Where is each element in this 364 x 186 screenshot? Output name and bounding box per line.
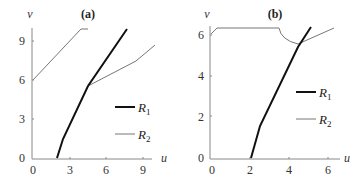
figure: 0 3 6 9 0 3 6 9 v u (a) R1 R2 0 2 4 6 (0, 0, 364, 186)
panel-b-xtick-label: 6 (325, 163, 331, 177)
panel-a-xtick-label: 3 (67, 163, 73, 177)
panel-a-r2-upper-curve (33, 29, 88, 80)
panel-a-y-label: v (27, 7, 33, 21)
panel-a-legend-r1-label: R1 (137, 100, 150, 117)
panel-b-xtick-label: 4 (286, 163, 292, 177)
panel-b-legend-r2-label: R2 (318, 112, 331, 129)
panel-a-r1-curve (57, 29, 127, 158)
panel-a-xtick-label: 0 (30, 163, 36, 177)
panel-a-ytick-label: 6 (19, 73, 25, 87)
panel-b: 0 2 4 6 0 2 4 6 v u (b) R1 R2 (198, 7, 350, 177)
panel-b-ytick-label: 0 (198, 151, 204, 165)
panel-a-x-label: u (161, 151, 167, 165)
panel-b-legend-r1-label: R1 (318, 85, 331, 102)
panel-b-title: (b) (268, 7, 283, 21)
panel-a-title: (a) (81, 7, 95, 21)
panel-a-ytick-label: 3 (19, 112, 25, 126)
panel-a-ytick-label: 9 (19, 34, 25, 48)
panel-b-xtick-label: 2 (247, 163, 253, 177)
panel-b-ytick-label: 6 (198, 28, 204, 42)
panel-a: 0 3 6 9 0 3 6 9 v u (a) R1 R2 (19, 7, 167, 177)
panel-b-xtick-label: 0 (209, 163, 215, 177)
panel-a-r2-lower-curve (88, 45, 155, 86)
panel-b-x-label: u (344, 151, 350, 165)
panel-b-r2-curve (211, 28, 334, 44)
panel-b-y-label: v (204, 7, 210, 21)
panel-a-xtick-label: 9 (140, 163, 146, 177)
panel-b-ytick-label: 4 (198, 69, 204, 83)
panel-a-legend-r2-label: R2 (137, 127, 150, 144)
panel-a-xtick-label: 6 (103, 163, 109, 177)
panel-b-ytick-label: 2 (198, 110, 204, 124)
panel-a-ytick-label: 0 (19, 151, 25, 165)
